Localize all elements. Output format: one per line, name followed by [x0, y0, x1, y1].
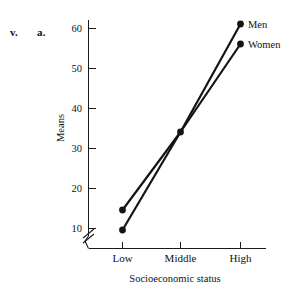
y-tick-label-10: 10 — [72, 223, 83, 234]
x-tick-label-middle: Middle — [165, 252, 197, 264]
series-line-men — [123, 24, 241, 230]
data-point-men-high — [237, 21, 244, 28]
y-axis-ticks — [89, 29, 96, 229]
y-tick-label-20: 20 — [72, 183, 83, 194]
series-line-women — [123, 44, 241, 210]
figure-panel: v. a. 60 50 40 30 20 10 — [0, 0, 292, 300]
series-label-men: Men — [248, 19, 268, 30]
x-axis-title: Socioeconomic status — [129, 273, 220, 284]
y-axis-title: Means — [55, 114, 66, 142]
y-tick-label-60: 60 — [72, 23, 83, 34]
data-point-women-low — [119, 207, 126, 214]
y-tick-label-30: 30 — [72, 143, 83, 154]
y-axis-break-join — [85, 236, 89, 249]
series-label-women: Women — [248, 39, 281, 50]
data-point-men-low — [119, 227, 126, 234]
data-point-middle-shared — [177, 129, 184, 136]
x-axis-ticks — [123, 242, 241, 249]
y-tick-label-40: 40 — [72, 103, 83, 114]
y-tick-label-50: 50 — [72, 63, 83, 74]
data-point-women-high — [237, 41, 244, 48]
line-chart: 60 50 40 30 20 10 Low Middle High Socioe… — [0, 0, 292, 300]
x-tick-label-low: Low — [112, 252, 132, 264]
x-tick-label-high: High — [230, 252, 253, 264]
